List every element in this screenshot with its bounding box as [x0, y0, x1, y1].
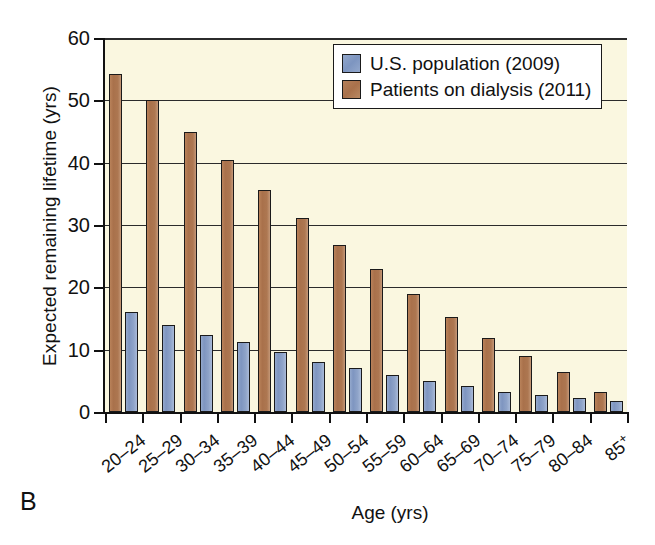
y-tick-label: 50 [68, 89, 90, 112]
bar-patients-on-dialysis [109, 74, 122, 412]
bar-us-population [274, 352, 287, 412]
bar-us-population [200, 335, 213, 412]
x-tick-mark [478, 412, 480, 423]
bar-us-population [535, 395, 548, 412]
x-tick-mark [552, 412, 554, 423]
bar-patients-on-dialysis [594, 392, 607, 412]
y-tick-label: 30 [68, 214, 90, 237]
x-tick-mark [627, 412, 629, 423]
x-tick-mark [329, 412, 331, 423]
bar-us-population [312, 362, 325, 412]
bar-patients-on-dialysis [296, 218, 309, 412]
bar-us-population [573, 398, 586, 412]
bar-patients-on-dialysis [258, 190, 271, 412]
x-tick-mark [180, 412, 182, 423]
x-tick-mark [105, 412, 107, 423]
y-tick-mark [94, 412, 105, 414]
y-tick-label: 60 [68, 27, 90, 50]
x-tick-mark [590, 412, 592, 423]
y-tick-label: 0 [79, 401, 90, 424]
x-axis-title: Age (yrs) [180, 502, 600, 524]
figure-panel-b: Expected remaining lifetime (yrs) Age (y… [0, 0, 655, 545]
bar-us-population [386, 375, 399, 412]
x-tick-mark [142, 412, 144, 423]
x-tick-mark [291, 412, 293, 423]
bar-patients-on-dialysis [519, 356, 532, 412]
legend-swatch-us-population [342, 54, 361, 73]
bar-patients-on-dialysis [146, 100, 159, 412]
chart-legend: U.S. population (2009)Patients on dialys… [333, 44, 602, 109]
y-tick-mark [94, 100, 105, 102]
bar-patients-on-dialysis [557, 372, 570, 412]
bar-us-population [461, 386, 474, 412]
legend-swatch-patients-on-dialysis [342, 80, 361, 99]
bar-patients-on-dialysis [482, 338, 495, 412]
y-tick-label: 10 [68, 338, 90, 361]
x-tick-mark [366, 412, 368, 423]
bar-patients-on-dialysis [407, 294, 420, 412]
panel-letter: B [20, 487, 37, 516]
y-tick-label: 20 [68, 276, 90, 299]
x-tick-mark [403, 412, 405, 423]
y-tick-mark [94, 350, 105, 352]
legend-item-patients-on-dialysis: Patients on dialysis (2011) [342, 76, 591, 102]
bar-us-population [498, 392, 511, 412]
y-axis-title: Expected remaining lifetime (yrs) [39, 26, 61, 426]
x-category-label: 85+ [600, 430, 637, 466]
bar-us-population [610, 401, 623, 412]
bar-patients-on-dialysis [445, 317, 458, 412]
gridline [105, 38, 627, 40]
bar-patients-on-dialysis [370, 269, 383, 412]
bar-us-population [423, 381, 436, 412]
x-tick-mark [441, 412, 443, 423]
legend-label: U.S. population (2009) [370, 54, 560, 73]
bar-patients-on-dialysis [221, 160, 234, 412]
legend-item-us-population: U.S. population (2009) [342, 50, 591, 76]
y-tick-mark [94, 163, 105, 165]
x-tick-mark [217, 412, 219, 423]
bar-us-population [162, 325, 175, 412]
y-tick-label: 40 [68, 151, 90, 174]
legend-label: Patients on dialysis (2011) [370, 80, 591, 99]
bar-patients-on-dialysis [184, 132, 197, 412]
bar-patients-on-dialysis [333, 245, 346, 412]
bar-us-population [349, 368, 362, 412]
y-tick-mark [94, 38, 105, 40]
x-tick-mark [254, 412, 256, 423]
y-tick-mark [94, 225, 105, 227]
bar-us-population [237, 342, 250, 412]
x-tick-mark [515, 412, 517, 423]
y-tick-mark [94, 287, 105, 289]
bar-us-population [125, 312, 138, 412]
